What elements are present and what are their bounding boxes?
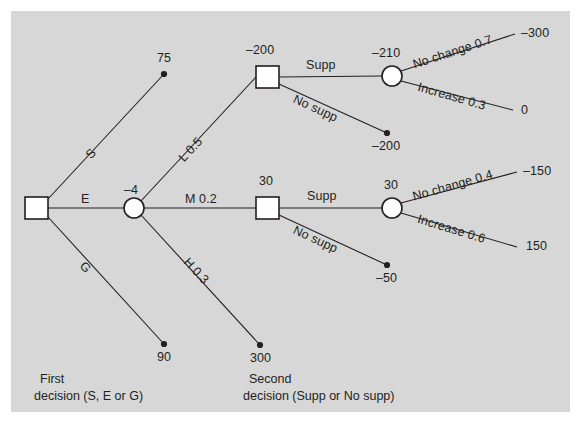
node-chance-top[interactable] (382, 66, 402, 86)
node-value-chance-e: –4 (124, 183, 138, 198)
decision-tree-figure: –4 –200 30 –210 30 S E G L 0.5 M 0.2 H 0… (0, 0, 581, 423)
caption-first-decision: First decision (S, E or G) (40, 371, 143, 405)
payoff-h: 300 (250, 351, 271, 366)
node-value-decision-top: –200 (246, 43, 274, 58)
branch-label-supp-top: Supp (306, 58, 336, 73)
decision-tree-canvas (0, 0, 581, 423)
terminal-dot-g (161, 341, 167, 347)
payoff-increase-top: 0 (521, 103, 528, 118)
node-value-chance-top: –210 (372, 46, 400, 61)
branch-label-e: E (81, 192, 89, 207)
node-chance-e[interactable] (124, 198, 144, 218)
payoff-increase-mid: 150 (526, 239, 547, 254)
caption-first-line2: decision (S, E or G) (34, 388, 143, 405)
node-value-chance-mid: 30 (384, 178, 398, 193)
caption-second-decision: Second decision (Supp or No supp) (249, 371, 394, 405)
terminal-dot-s (161, 71, 167, 77)
payoff-nochange-mid: –150 (523, 164, 551, 179)
caption-first-line1: First (40, 371, 143, 388)
payoff-s: 75 (157, 51, 171, 66)
payoff-nosupp-top: –200 (372, 139, 400, 154)
node-decision-mid[interactable] (256, 197, 279, 219)
terminal-dot-nosupp-mid (384, 262, 390, 268)
caption-second-line2: decision (Supp or No supp) (243, 388, 394, 405)
node-decision-top[interactable] (256, 66, 279, 88)
payoff-g: 90 (157, 350, 171, 365)
payoff-nosupp-mid: –50 (376, 271, 397, 286)
node-value-decision-mid: 30 (259, 174, 273, 189)
terminal-dot-nosupp-top (384, 130, 390, 136)
node-chance-mid[interactable] (382, 198, 402, 218)
node-first-decision[interactable] (25, 197, 48, 219)
terminal-dot-h (257, 342, 263, 348)
edge-supp-top (279, 76, 382, 77)
edge-g (48, 217, 164, 344)
edge-s (48, 74, 164, 199)
branch-label-m: M 0.2 (185, 192, 217, 207)
branch-label-supp-mid: Supp (307, 189, 337, 204)
caption-second-line1: Second (249, 371, 394, 388)
payoff-nochange-top: –300 (521, 26, 549, 41)
